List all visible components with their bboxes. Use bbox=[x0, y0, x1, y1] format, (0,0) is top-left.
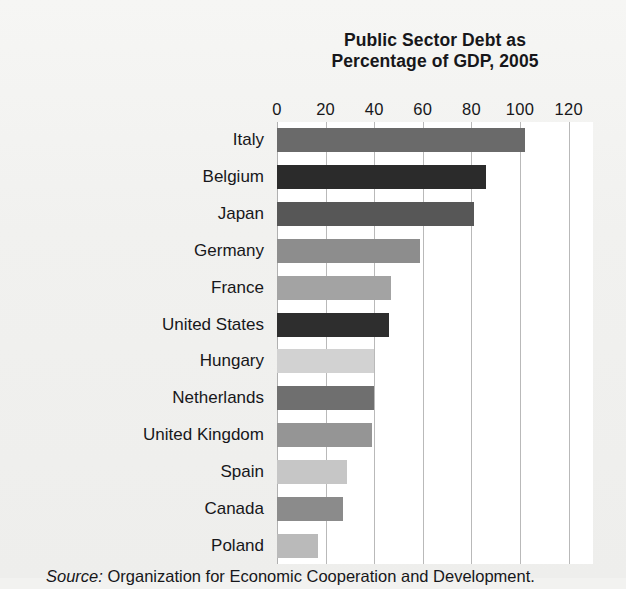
bar-row bbox=[277, 534, 593, 558]
x-tick-0: 0 bbox=[257, 100, 297, 119]
category-label-belgium: Belgium bbox=[203, 165, 264, 189]
bar-spain bbox=[277, 460, 347, 484]
x-tick-60: 60 bbox=[403, 100, 443, 119]
bar-canada bbox=[277, 497, 343, 521]
y-axis-category-labels: ItalyBelgiumJapanGermanyFranceUnited Sta… bbox=[40, 122, 272, 564]
bar-row bbox=[277, 497, 593, 521]
source-note: Source: Organization for Economic Cooper… bbox=[46, 567, 535, 586]
source-text: Organization for Economic Cooperation an… bbox=[107, 567, 534, 585]
category-label-france: France bbox=[211, 276, 264, 300]
bars-layer bbox=[277, 122, 593, 564]
category-label-hungary: Hungary bbox=[200, 349, 264, 373]
category-label-italy: Italy bbox=[233, 128, 264, 152]
bar-united-kingdom bbox=[277, 423, 372, 447]
category-label-united-states: United States bbox=[162, 313, 264, 337]
x-tick-120: 120 bbox=[549, 100, 589, 119]
bar-row bbox=[277, 128, 593, 152]
bar-row bbox=[277, 239, 593, 263]
bar-netherlands bbox=[277, 386, 374, 410]
bar-row bbox=[277, 423, 593, 447]
bar-row bbox=[277, 165, 593, 189]
bar-row bbox=[277, 349, 593, 373]
chart-title-line-2: Percentage of GDP, 2005 bbox=[277, 51, 593, 72]
plot-area bbox=[277, 122, 593, 564]
bar-row bbox=[277, 313, 593, 337]
category-label-poland: Poland bbox=[211, 534, 264, 558]
bar-row bbox=[277, 202, 593, 226]
bar-row bbox=[277, 460, 593, 484]
x-tick-20: 20 bbox=[306, 100, 346, 119]
source-label: Source: bbox=[46, 567, 103, 585]
x-tick-40: 40 bbox=[354, 100, 394, 119]
chart-title-line-1: Public Sector Debt as bbox=[277, 30, 593, 51]
bar-hungary bbox=[277, 349, 374, 373]
bar-italy bbox=[277, 128, 525, 152]
category-label-united-kingdom: United Kingdom bbox=[143, 423, 264, 447]
category-label-canada: Canada bbox=[204, 497, 264, 521]
bar-row bbox=[277, 276, 593, 300]
category-label-germany: Germany bbox=[194, 239, 264, 263]
x-tick-80: 80 bbox=[451, 100, 491, 119]
bar-chart-figure: Public Sector Debt as Percentage of GDP,… bbox=[40, 16, 626, 589]
bar-belgium bbox=[277, 165, 486, 189]
category-label-netherlands: Netherlands bbox=[172, 386, 264, 410]
category-label-spain: Spain bbox=[221, 460, 264, 484]
bar-united-states bbox=[277, 313, 389, 337]
bar-japan bbox=[277, 202, 474, 226]
x-tick-100: 100 bbox=[500, 100, 540, 119]
category-label-japan: Japan bbox=[218, 202, 264, 226]
bar-row bbox=[277, 386, 593, 410]
bar-germany bbox=[277, 239, 420, 263]
bar-france bbox=[277, 276, 391, 300]
chart-title: Public Sector Debt as Percentage of GDP,… bbox=[277, 30, 593, 72]
bar-poland bbox=[277, 534, 318, 558]
x-axis-tick-labels: 020406080100120 bbox=[40, 100, 626, 120]
